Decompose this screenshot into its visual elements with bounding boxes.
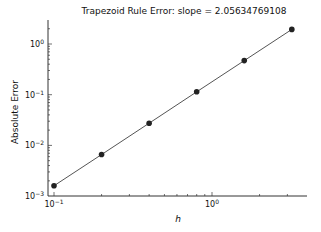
x-tick-label: 100 bbox=[205, 198, 219, 209]
x-tick-label: 10−1 bbox=[44, 198, 63, 209]
log-log-chart: Trapezoid Rule Error: slope = 2.05634769… bbox=[0, 0, 321, 232]
data-point-marker bbox=[146, 120, 152, 126]
error-line bbox=[54, 29, 292, 185]
y-tick-label: 10−3 bbox=[25, 190, 44, 201]
y-tick-label: 10−2 bbox=[25, 139, 44, 150]
chart-title: Trapezoid Rule Error: slope = 2.05634769… bbox=[81, 6, 287, 16]
plot-area bbox=[51, 27, 294, 189]
data-point-marker bbox=[99, 152, 105, 158]
x-axis-label: h bbox=[175, 214, 181, 224]
y-tick-label: 100 bbox=[30, 38, 44, 49]
data-point-marker bbox=[289, 27, 295, 33]
data-point-marker bbox=[51, 183, 57, 189]
data-point-marker bbox=[241, 58, 247, 64]
y-tick-label: 10−1 bbox=[25, 89, 44, 100]
axes: 10−310−210−110010−1100 bbox=[25, 20, 307, 209]
data-point-marker bbox=[194, 89, 200, 95]
y-axis-label: Absolute Error bbox=[10, 80, 20, 144]
